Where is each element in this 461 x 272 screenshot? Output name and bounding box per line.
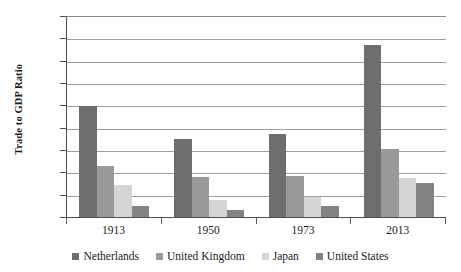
bar-chart: Trade to GDP Ratio 020406080100120140160…: [0, 0, 461, 272]
x-axis-tick-label-2013: 2013: [350, 224, 445, 236]
bar-united-kingdom-1973: [286, 176, 304, 218]
legend-swatch-icon: [72, 253, 79, 260]
legend-item-united-states[interactable]: United States: [316, 250, 389, 262]
bar-japan-2013: [399, 178, 417, 218]
bar-japan-1950: [209, 200, 227, 218]
bar-japan-1973: [304, 197, 322, 218]
x-axis-tick-mark: [350, 217, 351, 224]
legend-label: Netherlands: [83, 250, 139, 262]
legend-label: United Kingdom: [167, 250, 245, 262]
bar-group-1973: [269, 17, 339, 218]
bar-united-kingdom-2013: [381, 149, 399, 218]
x-axis-tick-mark: [445, 217, 446, 224]
x-axis-tick-label-1973: 1973: [256, 224, 351, 236]
plot-inner: [67, 17, 446, 218]
x-axis-tick-mark: [256, 217, 257, 224]
bar-group-2013: [364, 17, 434, 218]
bar-netherlands-1973: [269, 134, 287, 218]
legend-item-united-kingdom[interactable]: United Kingdom: [156, 250, 245, 262]
legend-item-netherlands[interactable]: Netherlands: [72, 250, 139, 262]
bar-group-1913: [79, 17, 149, 218]
legend-swatch-icon: [262, 253, 269, 260]
legend-label: Japan: [273, 250, 299, 262]
chart-legend: NetherlandsUnited KingdomJapanUnited Sta…: [0, 250, 461, 262]
legend-label: United States: [327, 250, 389, 262]
bar-united-kingdom-1913: [97, 166, 115, 218]
x-axis-tick-label-1913: 1913: [66, 224, 161, 236]
legend-swatch-icon: [316, 253, 323, 260]
bar-netherlands-1950: [174, 139, 192, 218]
y-axis-title: Trade to GDP Ratio: [13, 20, 24, 200]
bar-japan-1913: [114, 185, 132, 219]
legend-item-japan[interactable]: Japan: [262, 250, 299, 262]
legend-swatch-icon: [156, 253, 163, 260]
x-axis-tick-label-1950: 1950: [161, 224, 256, 236]
x-axis-tick-mark: [66, 217, 67, 224]
x-axis-tick-mark: [161, 217, 162, 224]
bar-netherlands-1913: [79, 106, 97, 218]
plot-area: [66, 16, 446, 218]
bar-united-kingdom-1950: [192, 177, 210, 218]
bar-netherlands-2013: [364, 45, 382, 218]
bar-united-states-2013: [416, 183, 434, 218]
bar-group-1950: [174, 17, 244, 218]
